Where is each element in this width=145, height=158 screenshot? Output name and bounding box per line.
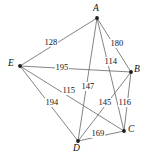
graph-edge-e-b [20,66,131,72]
edge-weight-b-c: 116 [118,98,131,107]
graph-edge-a-d [78,18,97,141]
edge-weight-a-e: 128 [44,38,58,47]
edge-weight-c-d: 169 [91,129,105,138]
graph-vertex-b [129,70,133,74]
graph-vertex-e [18,64,22,68]
graph-vertex-a [95,16,99,20]
edge-weight-e-b: 195 [55,63,69,72]
vertex-label-c: C [128,125,134,135]
edge-weight-e-c: 115 [62,86,75,95]
edge-weight-a-d: 147 [81,82,95,91]
vertex-label-d: D [73,144,80,154]
edge-weight-a-b: 180 [110,39,124,48]
graph-canvas [0,0,145,158]
edges-group [20,18,131,141]
edge-weight-b-d: 145 [98,98,112,107]
vertex-label-b: B [134,65,140,75]
graph-edge-a-c [97,18,124,131]
weighted-graph-figure: ABCDE128180114147195115194145116169 [0,0,145,158]
vertex-label-a: A [93,4,99,14]
vertex-label-e: E [8,59,14,69]
graph-edge-a-e [20,18,97,66]
edge-weight-a-c: 114 [104,57,117,66]
vertices-group [18,16,133,143]
edge-weight-e-d: 194 [45,98,59,107]
graph-vertex-c [122,129,126,133]
